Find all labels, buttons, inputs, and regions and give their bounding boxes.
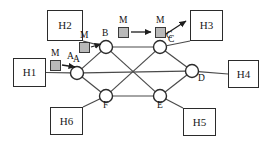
router-link-group xyxy=(82,47,187,96)
host-label-h5: H5 xyxy=(193,117,206,128)
packet-label-pkt-b-c: M xyxy=(119,16,127,26)
router-label-a: A xyxy=(73,55,80,65)
host-box-h5[interactable]: H5 xyxy=(183,108,216,136)
host-label-h3: H3 xyxy=(200,20,213,31)
host-box-h2[interactable]: H2 xyxy=(47,10,83,41)
host-label-h6: H6 xyxy=(60,116,73,127)
router-link-f-a xyxy=(82,77,101,92)
router-node-d[interactable] xyxy=(186,65,199,78)
host-box-h6[interactable]: H6 xyxy=(50,107,83,135)
router-label-b: B xyxy=(102,29,108,39)
packet-label-pkt-c-h3: M xyxy=(156,16,164,26)
packet-square-pkt-a-b xyxy=(79,42,90,53)
host-label-h2: H2 xyxy=(58,20,71,31)
router-link-c-d xyxy=(165,51,187,67)
label-link-c: C xyxy=(168,35,174,45)
router-link-d-e xyxy=(165,75,187,92)
router-label-f: F xyxy=(103,101,108,111)
router-node-a[interactable] xyxy=(71,67,84,80)
host-box-h3[interactable]: H3 xyxy=(190,10,223,41)
router-label-d: D xyxy=(198,74,205,84)
host-link-h5-e xyxy=(166,99,183,108)
diagram-canvas: H1H2H3H4H5H6 ABCDEF MMMM AC xyxy=(0,0,267,145)
arrow-h1-to-a xyxy=(62,65,75,67)
host-box-h4[interactable]: H4 xyxy=(228,60,259,88)
label-link-a: A xyxy=(67,52,74,62)
packet-square-pkt-h1-a xyxy=(50,60,61,71)
packet-square-pkt-c-h3 xyxy=(155,27,166,38)
host-label-h1: H1 xyxy=(23,67,36,78)
router-link-a-b xyxy=(82,51,101,68)
packet-label-pkt-a-b: M xyxy=(80,31,88,41)
host-box-h1[interactable]: H1 xyxy=(13,58,46,87)
router-node-b[interactable] xyxy=(100,41,113,54)
router-node-c[interactable] xyxy=(154,41,167,54)
host-link-h6-f xyxy=(83,99,100,107)
packet-square-pkt-b-c xyxy=(118,27,129,38)
host-label-h4: H4 xyxy=(237,69,250,80)
packet-label-pkt-h1-a: M xyxy=(51,49,59,59)
router-label-e: E xyxy=(157,101,163,111)
